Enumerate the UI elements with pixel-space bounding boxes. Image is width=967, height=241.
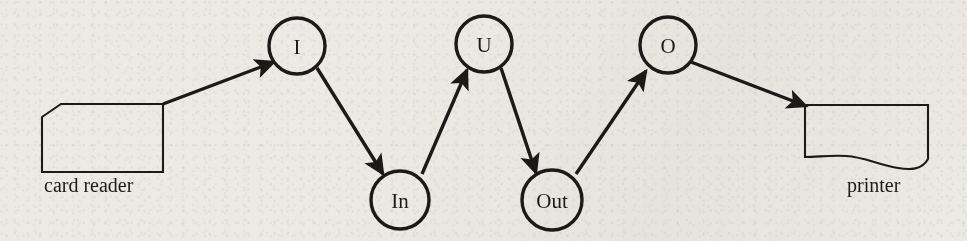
dataflow-diagram: card reader printer I In U bbox=[0, 0, 967, 241]
node-U-label: U bbox=[476, 33, 491, 57]
edge-In-to-U bbox=[422, 70, 467, 174]
node-In-label: In bbox=[391, 189, 409, 213]
node-Out-label: Out bbox=[536, 189, 568, 213]
printer-shape bbox=[805, 105, 928, 169]
edges-group bbox=[163, 62, 806, 174]
node-Out[interactable]: Out bbox=[522, 170, 582, 230]
node-O-label: O bbox=[660, 34, 675, 58]
edge-O-to-printer bbox=[691, 62, 806, 106]
node-I-label: I bbox=[294, 35, 301, 59]
node-In[interactable]: In bbox=[371, 171, 429, 229]
edge-U-to-Out bbox=[501, 68, 536, 173]
edge-I-to-In bbox=[317, 68, 383, 174]
node-I[interactable]: I bbox=[269, 18, 325, 74]
node-O[interactable]: O bbox=[640, 17, 696, 73]
edge-Out-to-O bbox=[576, 71, 646, 174]
printer-label: printer bbox=[847, 174, 901, 197]
node-U[interactable]: U bbox=[456, 16, 512, 72]
diagram-canvas: card reader printer I In U bbox=[0, 0, 967, 241]
device-card-reader[interactable]: card reader bbox=[42, 104, 163, 196]
card-reader-label: card reader bbox=[44, 174, 134, 196]
device-printer[interactable]: printer bbox=[805, 105, 928, 197]
card-reader-shape bbox=[42, 104, 163, 172]
edge-cardreader-to-I bbox=[163, 62, 274, 104]
